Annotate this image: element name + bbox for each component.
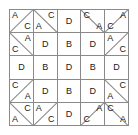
grid-cell-r3-c2[interactable]: B bbox=[34, 56, 58, 79]
cell-letter: C bbox=[24, 104, 31, 113]
grid-cell-r4-c2[interactable]: D bbox=[34, 80, 58, 103]
cell-letter: C bbox=[107, 22, 114, 31]
cell-letter: D bbox=[90, 86, 97, 95]
grid-cell-r3-c3[interactable]: D bbox=[58, 56, 82, 79]
grid-cell-r4-c5[interactable]: CA bbox=[105, 80, 129, 103]
cell-letter: C bbox=[48, 11, 55, 20]
grid-cell-r2-c5[interactable]: AC bbox=[105, 33, 129, 56]
grid-cell-r2-c3[interactable]: B bbox=[58, 33, 82, 56]
cell-letter: D bbox=[66, 109, 73, 118]
cell-letter: A bbox=[96, 104, 102, 113]
cell-letter: A bbox=[25, 34, 31, 43]
grid-cell-r4-c4[interactable]: D bbox=[81, 80, 105, 103]
cell-letter: A bbox=[120, 115, 126, 124]
grid-cell-r1-c4[interactable]: CA bbox=[81, 10, 105, 33]
grid-cell-r2-c2[interactable]: D bbox=[34, 33, 58, 56]
cell-letter: D bbox=[90, 40, 97, 49]
cell-letter: B bbox=[90, 63, 96, 72]
cell-letter: D bbox=[113, 63, 120, 72]
grid-cell-r3-c4[interactable]: B bbox=[81, 56, 105, 79]
cell-letter: A bbox=[36, 22, 42, 31]
cell-letter: D bbox=[42, 86, 49, 95]
cell-letter: D bbox=[42, 40, 49, 49]
cell-letter: C bbox=[12, 45, 19, 54]
cell-letter: D bbox=[18, 63, 25, 72]
cell-letter: B bbox=[42, 63, 48, 72]
cell-letter: A bbox=[120, 11, 126, 20]
grid-cell-r3-c1[interactable]: D bbox=[10, 56, 34, 79]
cell-letter: A bbox=[107, 34, 113, 43]
cell-letter: A bbox=[12, 11, 18, 20]
grid-cell-r5-c2[interactable]: AC bbox=[34, 103, 58, 126]
cell-letter: D bbox=[66, 17, 73, 26]
cell-letter: A bbox=[25, 92, 31, 101]
grid-cell-r1-c1[interactable]: AC bbox=[10, 10, 34, 33]
cell-letter: B bbox=[66, 86, 72, 95]
cell-letter: A bbox=[36, 104, 42, 113]
cell-letter: C bbox=[24, 22, 31, 31]
cell-letter: C bbox=[107, 104, 114, 113]
grid-cell-r1-c2[interactable]: CA bbox=[34, 10, 58, 33]
grid-cell-r2-c4[interactable]: D bbox=[81, 33, 105, 56]
grid-cell-r5-c1[interactable]: CA bbox=[10, 103, 34, 126]
grid-cell-r3-c5[interactable]: D bbox=[105, 56, 129, 79]
grid-cell-r1-c3[interactable]: D bbox=[58, 10, 82, 33]
cell-letter: A bbox=[96, 22, 102, 31]
cell-letter: C bbox=[119, 81, 126, 90]
cell-letter: A bbox=[12, 115, 18, 124]
grid-cell-r5-c5[interactable]: CA bbox=[105, 103, 129, 126]
grid-cell-r5-c4[interactable]: AC bbox=[81, 103, 105, 126]
cell-letter: B bbox=[66, 40, 72, 49]
grid-cell-r2-c1[interactable]: AC bbox=[10, 33, 34, 56]
grid-cell-r4-c1[interactable]: CA bbox=[10, 80, 34, 103]
cell-letter: C bbox=[83, 115, 90, 124]
grid-cell-r4-c3[interactable]: B bbox=[58, 80, 82, 103]
letter-grid-puzzle: ACCADCAACACDBDACDBDBDCADBDCACAACDACCA bbox=[0, 0, 138, 135]
puzzle-grid: ACCADCAACACDBDACDBDBDCADBDCACAACDACCA bbox=[9, 9, 129, 126]
cell-letter: C bbox=[119, 45, 126, 54]
cell-letter: D bbox=[66, 63, 73, 72]
cell-letter: C bbox=[12, 81, 19, 90]
grid-cell-r1-c5[interactable]: AC bbox=[105, 10, 129, 33]
grid-cell-r5-c3[interactable]: D bbox=[58, 103, 82, 126]
cell-letter: A bbox=[107, 92, 113, 101]
cell-letter: C bbox=[83, 11, 90, 20]
cell-letter: C bbox=[48, 115, 55, 124]
